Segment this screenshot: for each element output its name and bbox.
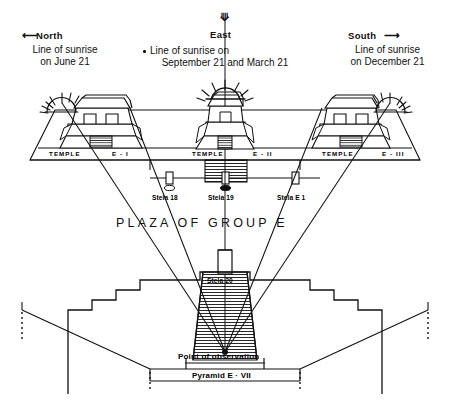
south-caption-line2: on December 21: [330, 56, 445, 68]
stela-18-label: Stela 18: [152, 194, 178, 201]
stela-20-label: Stela 20: [207, 277, 233, 284]
arrow-left-icon: ⟵: [22, 30, 38, 41]
plaza-label: PLAZA OF GROUP E: [116, 216, 288, 230]
arrow-right-icon: ⟶: [384, 30, 400, 41]
north-caption-line1: Line of sunrise: [10, 44, 120, 56]
east-caption-bullet-icon: [143, 50, 146, 53]
north-caption-line2: on June 21: [10, 56, 120, 68]
stela-e1-label: Stela E 1: [277, 194, 305, 201]
temple-e3-name: TEMPLE: [322, 150, 354, 157]
temple-e1-name: TEMPLE: [49, 150, 81, 157]
arrow-up-icon: ⟱: [220, 12, 229, 23]
temple-e2-designation: E - II: [253, 150, 273, 157]
east-caption-line2: September 21 and March 21: [135, 57, 315, 69]
pyramid-stairway: [193, 272, 257, 360]
south-caption-line1: Line of sunrise: [330, 44, 445, 56]
stela-20-marker: [218, 250, 232, 274]
group-e-observatory-diagram: North ⟵ Line of sunrise on June 21 ⟱ Eas…: [0, 0, 450, 404]
compass-east-label: East: [210, 29, 231, 40]
point-of-observation-label: Point of observation: [178, 352, 259, 361]
temple-e1-designation: E - I: [112, 150, 129, 157]
pyramid-name-label: Pyramid E · VII: [192, 371, 251, 380]
stela-19-label: Stela 19: [208, 194, 234, 201]
temple-e3-designation: E - III: [382, 150, 404, 157]
compass-north-label: North: [36, 30, 63, 41]
east-caption-line1: Line of sunrise on: [150, 45, 300, 57]
compass-south-label: South: [348, 30, 376, 41]
temple-e2-name: TEMPLE: [192, 150, 224, 157]
